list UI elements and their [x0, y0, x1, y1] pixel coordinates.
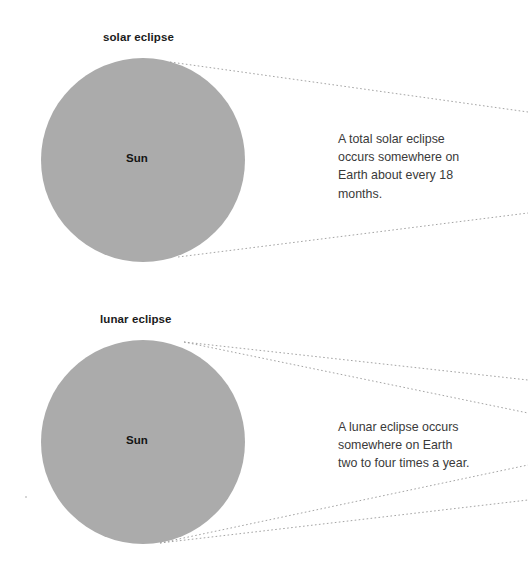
eclipse-diagram-canvas — [0, 0, 528, 570]
lunar-eclipse-title: lunar eclipse — [100, 313, 172, 325]
light-ray — [178, 213, 528, 257]
solar-eclipse-caption: A total solar eclipse occurs somewhere o… — [338, 130, 503, 203]
solar-eclipse-title: solar eclipse — [103, 31, 174, 43]
eclipse-diagram-page: solar eclipse Sun A total solar eclipse … — [0, 0, 528, 570]
lunar-eclipse-caption: A lunar eclipse occurs somewhere on Eart… — [338, 418, 503, 473]
caption-line: A total solar eclipse — [338, 130, 503, 148]
sun-label-solar: Sun — [126, 152, 148, 164]
caption-line: two to four times a year. — [338, 454, 503, 472]
caption-line: occurs somewhere on — [338, 148, 503, 166]
sun-label-lunar: Sun — [126, 434, 148, 446]
light-ray — [184, 342, 528, 380]
caption-line: Earth about every 18 — [338, 166, 503, 184]
caption-line: A lunar eclipse occurs — [338, 418, 503, 436]
caption-line: months. — [338, 185, 503, 203]
stray-mark — [25, 496, 27, 498]
caption-line: somewhere on Earth — [338, 436, 503, 454]
